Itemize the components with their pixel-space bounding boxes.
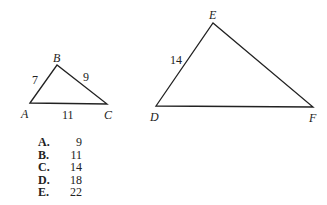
choice-value: 22: [64, 186, 82, 199]
choice-value: 14: [64, 161, 82, 174]
side-de-length: 14: [170, 53, 182, 67]
choice-letter: C.: [38, 161, 64, 174]
choice-letter: E.: [38, 186, 64, 199]
side-bc-length: 9: [83, 70, 89, 84]
choice-a[interactable]: A.9: [38, 136, 82, 149]
choice-value: 9: [64, 136, 82, 149]
choice-c[interactable]: C.14: [38, 161, 82, 174]
vertex-c-label: C: [104, 108, 113, 122]
vertex-e-label: E: [208, 8, 217, 22]
side-ac-length: 11: [62, 108, 74, 122]
triangle-abc: [30, 65, 107, 104]
answer-choices: A.9 B.11 C.14 D.18 E.22: [38, 136, 82, 199]
vertex-b-label: B: [53, 51, 61, 65]
vertex-f-label: F: [308, 111, 317, 125]
choice-letter: A.: [38, 136, 64, 149]
vertex-a-label: A: [20, 107, 29, 121]
side-ab-length: 7: [32, 73, 38, 87]
vertex-d-label: D: [149, 110, 159, 124]
choice-e[interactable]: E.22: [38, 186, 82, 199]
